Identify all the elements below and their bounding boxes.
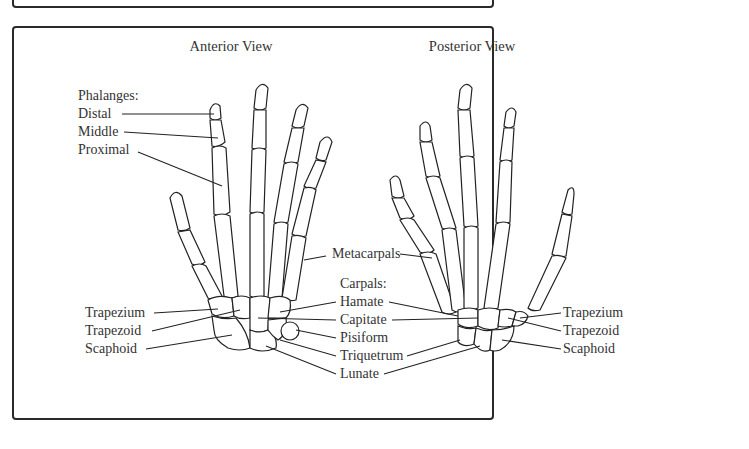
capitate-label: Capitate	[340, 312, 387, 327]
anterior-capitate	[250, 296, 270, 332]
anterior-trapezoid	[232, 296, 250, 319]
left-scaphoid-label: Scaphoid	[85, 341, 137, 356]
triquetrum-label: Triquetrum	[340, 348, 403, 363]
middle-label: Middle	[78, 124, 118, 139]
right-trapezoid-label: Trapezoid	[563, 323, 619, 338]
lunate-label: Lunate	[340, 366, 379, 381]
carpals-header-label: Carpals:	[340, 276, 387, 291]
hamate-label: Hamate	[340, 294, 384, 309]
phalanges-header-label: Phalanges:	[78, 88, 139, 103]
anterior-hamate	[268, 296, 291, 318]
left-trapezium-label: Trapezium	[85, 305, 145, 320]
proximal-label: Proximal	[78, 142, 129, 157]
previous-panel-frame	[13, 0, 493, 7]
posterior-lunate	[474, 328, 492, 351]
hand-bones-diagram: Anterior View Posterior View	[0, 0, 749, 449]
anterior-pisiform	[281, 322, 299, 340]
left-trapezoid-label: Trapezoid	[85, 323, 141, 338]
anterior-view-title: Anterior View	[189, 38, 273, 54]
posterior-capitate	[478, 308, 500, 330]
pisiform-label: Pisiform	[340, 330, 388, 345]
right-trapezium-label: Trapezium	[563, 305, 623, 320]
posterior-view-title: Posterior View	[429, 38, 516, 54]
distal-label: Distal	[78, 106, 112, 121]
metacarpals-label: Metacarpals	[332, 246, 400, 261]
posterior-scaphoid	[490, 326, 514, 351]
right-scaphoid-label: Scaphoid	[563, 341, 615, 356]
posterior-triquetrum	[458, 326, 476, 346]
